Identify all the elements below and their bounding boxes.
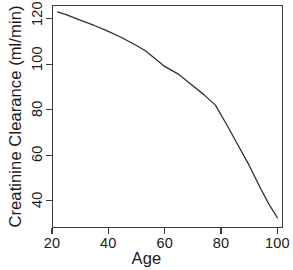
- plot-area: [52, 5, 283, 228]
- y-tick-mark: [46, 200, 52, 201]
- line-series-creatinine-clearance: [58, 12, 278, 218]
- y-tick-label: 60: [29, 148, 45, 162]
- y-tick-mark: [46, 109, 52, 110]
- x-tick-mark: [164, 228, 165, 234]
- chart-page: 20 40 60 80 100 40 60 80 100 120 Age Cre…: [0, 0, 293, 270]
- x-axis-title: Age: [0, 249, 293, 268]
- y-tick-label: 100: [29, 57, 45, 71]
- x-tick-mark: [108, 228, 109, 234]
- y-tick-label: 80: [29, 103, 45, 117]
- x-tick-mark: [277, 228, 278, 234]
- y-tick-mark: [46, 18, 52, 19]
- y-axis-title: Creatinine Clearance (ml/min): [6, 5, 25, 227]
- x-tick-mark: [220, 228, 221, 234]
- y-tick-label: 40: [29, 194, 45, 208]
- y-tick-label: 120: [29, 12, 45, 26]
- y-tick-mark: [46, 64, 52, 65]
- y-tick-mark: [46, 155, 52, 156]
- x-tick-mark: [51, 228, 52, 234]
